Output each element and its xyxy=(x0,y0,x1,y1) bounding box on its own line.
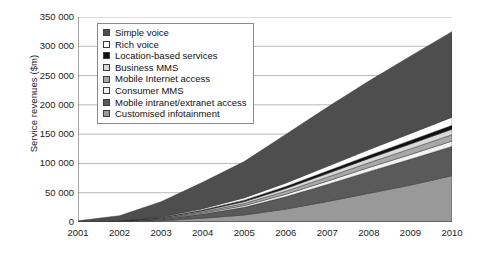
y-tick-label: 300 000 xyxy=(40,41,74,51)
x-tick-label: 2008 xyxy=(358,228,379,238)
x-tick-label: 2010 xyxy=(441,228,462,238)
legend-item: Location-based services xyxy=(103,50,246,62)
legend-item: Mobile intranet/extranet access xyxy=(103,97,246,109)
legend-swatch-icon xyxy=(103,64,110,71)
legend-label: Mobile intranet/extranet access xyxy=(115,97,246,109)
y-tick-label: 150 000 xyxy=(40,129,74,139)
x-tick-label: 2007 xyxy=(317,228,338,238)
x-tick-label: 2009 xyxy=(400,228,421,238)
legend-item: Simple voice xyxy=(103,27,246,39)
y-tick-label: 350 000 xyxy=(40,12,74,22)
legend-label: Rich voice xyxy=(115,39,159,51)
legend-swatch-icon xyxy=(103,99,110,106)
legend-item: Customised infotainment xyxy=(103,108,246,120)
legend-swatch-icon xyxy=(103,29,110,36)
chart-legend: Simple voiceRich voiceLocation-based ser… xyxy=(97,23,254,124)
legend-label: Location-based services xyxy=(115,50,217,62)
y-tick-label: 250 000 xyxy=(40,71,74,81)
legend-swatch-icon xyxy=(103,76,110,83)
legend-swatch-icon xyxy=(103,41,110,48)
legend-item: Business MMS xyxy=(103,62,246,74)
x-tick-label: 2005 xyxy=(234,228,255,238)
legend-label: Business MMS xyxy=(115,62,178,74)
legend-label: Consumer MMS xyxy=(115,85,184,97)
y-tick-label: 100 000 xyxy=(40,158,74,168)
x-tick-label: 2006 xyxy=(275,228,296,238)
legend-item: Rich voice xyxy=(103,39,246,51)
legend-label: Mobile Internet access xyxy=(115,73,210,85)
legend-item: Consumer MMS xyxy=(103,85,246,97)
legend-swatch-icon xyxy=(103,110,110,117)
x-tick-label: 2004 xyxy=(192,228,213,238)
y-tick-label: 50 000 xyxy=(45,188,74,198)
legend-swatch-icon xyxy=(103,52,110,59)
legend-swatch-icon xyxy=(103,87,110,94)
x-tick-label: 2001 xyxy=(67,228,88,238)
legend-label: Simple voice xyxy=(115,27,169,39)
x-axis-tick-labels: 2001200220032004200520062007200820092010 xyxy=(0,226,486,246)
legend-label: Customised infotainment xyxy=(115,108,220,120)
stacked-area-chart: Service revenues ($m) 050 000100 000150 … xyxy=(0,0,486,265)
x-tick-label: 2002 xyxy=(109,228,130,238)
legend-item: Mobile Internet access xyxy=(103,73,246,85)
y-tick-label: 200 000 xyxy=(40,100,74,110)
x-tick-label: 2003 xyxy=(151,228,172,238)
